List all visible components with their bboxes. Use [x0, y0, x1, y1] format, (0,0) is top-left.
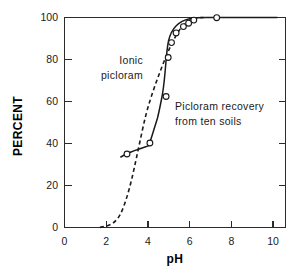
annotation-picloram-recovery: Picloram recovery from ten soils [175, 100, 265, 127]
x-axis-ticks [65, 221, 274, 228]
x-tick-label-6: 6 [187, 235, 193, 247]
y-tick-label-100: 100 [40, 11, 58, 23]
x-tick-label-2: 2 [103, 235, 109, 247]
annotation-picloram-recovery-line-2: from ten soils [175, 115, 242, 127]
x-tick-label-4: 4 [145, 235, 151, 247]
x-tick-label-8: 8 [228, 235, 234, 247]
y-tick-label-20: 20 [46, 179, 58, 191]
data-point [191, 17, 197, 23]
series-picloram-recovery-curve [121, 18, 277, 158]
annotation-ionic-picloram-line-2: picloram [101, 69, 143, 81]
data-point [165, 55, 171, 61]
annotation-picloram-recovery-line-1: Picloram recovery [175, 100, 265, 112]
y-axis-ticks [65, 18, 72, 228]
y-tick-label-40: 40 [46, 137, 58, 149]
x-tick-label-0: 0 [62, 235, 68, 247]
y-tick-label-60: 60 [46, 95, 58, 107]
y-tick-label-0: 0 [52, 221, 58, 233]
data-point [169, 40, 175, 46]
data-point [147, 140, 153, 146]
chart-plot-area: 0 20 40 60 80 100 0 2 4 6 8 10 PERCENT p… [0, 0, 308, 272]
data-point [181, 24, 187, 30]
data-point [163, 94, 169, 100]
annotation-ionic-picloram: Ionic picloram [101, 54, 143, 81]
data-point-markers [124, 15, 220, 157]
data-point [173, 30, 179, 36]
data-point [214, 15, 220, 21]
y-axis-title: PERCENT [11, 96, 25, 156]
y-axis-ticks-right [279, 60, 286, 186]
data-point [124, 151, 130, 157]
x-axis-title: pH [167, 252, 184, 266]
annotation-ionic-picloram-line-1: Ionic [119, 54, 143, 66]
y-tick-label-80: 80 [46, 53, 58, 65]
x-tick-label-10: 10 [267, 235, 279, 247]
chart-figure: 0 20 40 60 80 100 0 2 4 6 8 10 PERCENT p… [0, 0, 308, 272]
